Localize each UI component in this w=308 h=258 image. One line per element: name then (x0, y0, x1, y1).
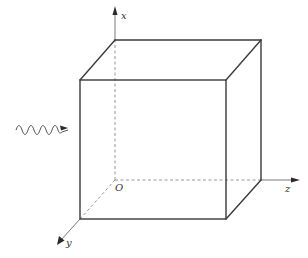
front-face (80, 80, 226, 219)
x-axis-arrow-icon (113, 6, 118, 15)
top-left-diagonal (80, 40, 115, 80)
axes (57, 6, 300, 245)
hidden-edges (80, 40, 261, 219)
x-axis-label: x (121, 10, 127, 21)
incident-wave (16, 126, 68, 135)
hidden-edge-y (80, 180, 115, 219)
top-right-diagonal (226, 40, 261, 80)
wave-squiggle-icon (16, 126, 68, 135)
box-edges (80, 40, 261, 219)
wave-arrow-icon (60, 126, 68, 131)
origin-label: O (115, 182, 123, 193)
cube-coordinate-diagram: x z y O (0, 0, 308, 258)
y-axis-label: y (65, 237, 72, 248)
z-axis-arrow-icon (291, 178, 300, 183)
z-axis-label: z (284, 183, 291, 194)
bottom-right-diagonal (226, 180, 261, 219)
axis-labels: x z y O (65, 10, 291, 248)
